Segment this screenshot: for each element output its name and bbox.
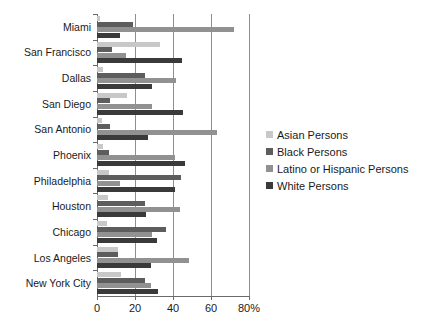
category-label: San Antonio bbox=[34, 123, 91, 135]
bar bbox=[97, 155, 175, 160]
y-axis-tick bbox=[93, 142, 97, 143]
legend-label: White Persons bbox=[277, 180, 349, 192]
y-axis-tick bbox=[93, 14, 97, 15]
legend-swatch-icon bbox=[266, 165, 273, 172]
x-axis-tick-label: 60 bbox=[205, 302, 217, 314]
x-axis-tick-label: 0 bbox=[94, 302, 100, 314]
bar bbox=[97, 187, 175, 192]
legend-label: Latino or Hispanic Persons bbox=[277, 163, 408, 175]
category-label: San Diego bbox=[42, 98, 91, 110]
x-axis-tick bbox=[173, 296, 174, 300]
bar bbox=[97, 42, 160, 47]
category-label: Philadelphia bbox=[34, 175, 91, 187]
y-axis-tick bbox=[93, 270, 97, 271]
legend-label: Asian Persons bbox=[277, 129, 348, 141]
bar bbox=[97, 258, 189, 263]
category-label: San Francisco bbox=[24, 46, 91, 58]
bar bbox=[97, 247, 118, 252]
category-label: Los Angeles bbox=[34, 252, 91, 264]
x-axis-tick bbox=[97, 296, 98, 300]
bar bbox=[97, 272, 121, 277]
bar bbox=[97, 161, 185, 166]
legend-item[interactable]: White Persons bbox=[266, 177, 408, 194]
legend-item[interactable]: Black Persons bbox=[266, 143, 408, 160]
legend-item[interactable]: Latino or Hispanic Persons bbox=[266, 160, 408, 177]
bar bbox=[97, 84, 152, 89]
category-label: Dallas bbox=[62, 72, 91, 84]
bar bbox=[97, 135, 148, 140]
bar bbox=[97, 283, 151, 288]
bar bbox=[97, 130, 217, 135]
gridline bbox=[211, 14, 212, 296]
bar bbox=[97, 201, 145, 206]
bar bbox=[97, 53, 126, 58]
bar bbox=[97, 73, 145, 78]
x-axis-tick-label: 80% bbox=[238, 302, 260, 314]
category-label: New York City bbox=[26, 277, 91, 289]
y-axis-tick bbox=[93, 219, 97, 220]
bar bbox=[97, 207, 180, 212]
bar bbox=[97, 278, 145, 283]
bar bbox=[97, 289, 158, 294]
y-axis-tick bbox=[93, 193, 97, 194]
x-axis-tick bbox=[135, 296, 136, 300]
bar bbox=[97, 252, 118, 257]
bar bbox=[97, 181, 120, 186]
legend-label: Black Persons bbox=[277, 146, 347, 158]
bar bbox=[97, 221, 107, 226]
bar bbox=[97, 124, 110, 129]
bar bbox=[97, 104, 152, 109]
legend-swatch-icon bbox=[266, 131, 273, 138]
bar bbox=[97, 47, 112, 52]
bar bbox=[97, 232, 152, 237]
bar bbox=[97, 27, 234, 32]
legend-item[interactable]: Asian Persons bbox=[266, 126, 408, 143]
gridline bbox=[249, 14, 250, 296]
bar bbox=[97, 227, 166, 232]
x-axis-tick bbox=[211, 296, 212, 300]
category-label: Chicago bbox=[52, 226, 91, 238]
bar bbox=[97, 93, 127, 98]
y-axis-tick bbox=[93, 65, 97, 66]
x-axis-tick-label: 40 bbox=[167, 302, 179, 314]
category-label: Miami bbox=[63, 21, 91, 33]
bar bbox=[97, 98, 110, 103]
bar bbox=[97, 67, 103, 72]
legend-swatch-icon bbox=[266, 182, 273, 189]
bar bbox=[97, 110, 183, 115]
bar bbox=[97, 263, 151, 268]
bar bbox=[97, 170, 109, 175]
bar bbox=[97, 144, 103, 149]
category-label: Houston bbox=[52, 200, 91, 212]
x-axis-tick-label: 20 bbox=[129, 302, 141, 314]
bar bbox=[97, 195, 108, 200]
bar bbox=[97, 175, 181, 180]
bar bbox=[97, 58, 182, 63]
bar bbox=[97, 150, 109, 155]
bar bbox=[97, 78, 176, 83]
bar bbox=[97, 212, 146, 217]
chart-legend: Asian PersonsBlack PersonsLatino or Hisp… bbox=[266, 126, 408, 194]
bar bbox=[97, 22, 133, 27]
category-label: Phoenix bbox=[53, 149, 91, 161]
bar bbox=[97, 118, 102, 123]
bar bbox=[97, 33, 120, 38]
bar bbox=[97, 238, 157, 243]
bar-chart: 020406080% MiamiSan FranciscoDallasSan D… bbox=[0, 0, 425, 330]
legend-swatch-icon bbox=[266, 148, 273, 155]
bar bbox=[97, 16, 100, 21]
x-axis-tick bbox=[249, 296, 250, 300]
